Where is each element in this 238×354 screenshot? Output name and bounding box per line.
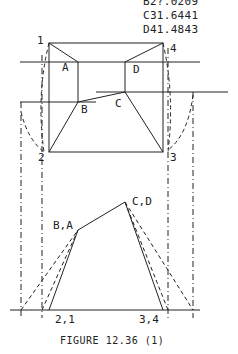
label-21: 2,1 bbox=[55, 314, 75, 325]
label-point-4: 4 bbox=[170, 43, 177, 54]
drawing-canvas bbox=[0, 0, 238, 354]
edge-1-a-b-2 bbox=[49, 43, 78, 152]
dashed-right-outer bbox=[125, 202, 193, 310]
edge-4-d-c-3 bbox=[125, 43, 163, 152]
dashed-left-inner bbox=[42, 230, 78, 310]
coordinate-line-c: C31.6441 bbox=[143, 10, 198, 21]
arc-left bbox=[21, 112, 44, 152]
label-ba: B,A bbox=[53, 220, 73, 231]
dashed-left-outer bbox=[21, 230, 78, 310]
label-point-2: 2 bbox=[38, 152, 45, 163]
label-point-c: C bbox=[115, 98, 122, 109]
label-point-a: A bbox=[62, 62, 69, 73]
figure-caption: FIGURE 12.36 (1) bbox=[60, 336, 164, 346]
label-34: 3,4 bbox=[139, 314, 159, 325]
arc-right bbox=[168, 95, 193, 150]
coordinate-line-b: B2?.0209 bbox=[143, 0, 198, 7]
label-point-d: D bbox=[133, 64, 140, 75]
label-point-b: B bbox=[81, 104, 88, 115]
label-point-1: 1 bbox=[37, 35, 44, 46]
label-cd: C,D bbox=[132, 196, 152, 207]
dashed-right-inner bbox=[125, 202, 168, 310]
outer-square bbox=[49, 43, 163, 152]
coordinate-line-d: D41.4843 bbox=[143, 24, 198, 35]
label-point-3: 3 bbox=[170, 152, 177, 163]
arc-4-3 bbox=[163, 43, 171, 152]
